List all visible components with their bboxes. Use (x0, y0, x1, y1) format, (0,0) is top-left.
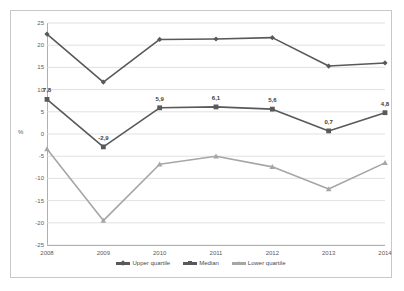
y-tick-label: -5 (39, 153, 44, 159)
chart-frame: % 2520151050-5-10-15-20-25 7,8-2,95,96,1… (10, 10, 392, 278)
data-point-marker (44, 146, 50, 151)
legend-label: Upper quartile (132, 260, 170, 266)
chart-legend: Upper quartileMedianLower quartile (11, 260, 391, 266)
data-point-label: 5,9 (155, 96, 163, 102)
plot-area: 7,8-2,95,96,15,60,74,8 (47, 23, 385, 245)
legend-label: Lower quartile (248, 260, 286, 266)
data-point-label: -2,9 (98, 135, 108, 141)
data-point-marker (383, 110, 388, 115)
x-tick-label: 2009 (97, 250, 110, 256)
x-tick-label: 2011 (210, 250, 223, 256)
y-tick-label: -10 (35, 175, 44, 181)
data-point-marker (270, 35, 275, 40)
y-tick-label: 25 (37, 20, 44, 26)
series-line-2 (47, 149, 385, 220)
data-point-marker (382, 160, 388, 165)
legend-swatch-icon (183, 262, 197, 265)
data-point-marker (270, 107, 275, 112)
legend-swatch-icon (116, 262, 130, 265)
data-point-marker (326, 63, 331, 68)
legend-item-1[interactable]: Median (183, 260, 219, 266)
data-point-marker (326, 128, 331, 133)
y-tick-label: -25 (35, 242, 44, 248)
x-tick-label: 2014 (378, 250, 391, 256)
legend-label: Median (199, 260, 219, 266)
x-axis-line (47, 245, 385, 246)
y-tick-label: -20 (35, 220, 44, 226)
data-point-label: 7,8 (43, 87, 51, 93)
data-point-label: 4,8 (381, 101, 389, 107)
data-point-marker (157, 105, 162, 110)
y-tick-label: 0 (41, 131, 44, 137)
y-tick-label: 20 (37, 42, 44, 48)
data-point-label: 6,1 (212, 95, 220, 101)
x-tick-label: 2013 (322, 250, 335, 256)
data-point-label: 5,6 (268, 97, 276, 103)
x-tick-label: 2010 (153, 250, 166, 256)
data-point-marker (214, 105, 219, 110)
x-tick-label: 2008 (40, 250, 53, 256)
x-axis-tick-labels: 2008200920102011201220132014 (47, 250, 385, 260)
data-point-label: 0,7 (324, 119, 332, 125)
data-point-marker (101, 144, 106, 149)
data-point-marker (213, 36, 218, 41)
y-tick-label: -15 (35, 198, 44, 204)
data-point-marker (45, 97, 50, 102)
y-axis-tick-labels: 2520151050-5-10-15-20-25 (11, 23, 44, 245)
x-tick-label: 2012 (266, 250, 279, 256)
legend-swatch-icon (232, 262, 246, 265)
y-tick-label: 15 (37, 64, 44, 70)
legend-item-0[interactable]: Upper quartile (116, 260, 170, 266)
data-point-marker (382, 60, 387, 65)
y-tick-label: 5 (41, 109, 44, 115)
legend-item-2[interactable]: Lower quartile (232, 260, 286, 266)
